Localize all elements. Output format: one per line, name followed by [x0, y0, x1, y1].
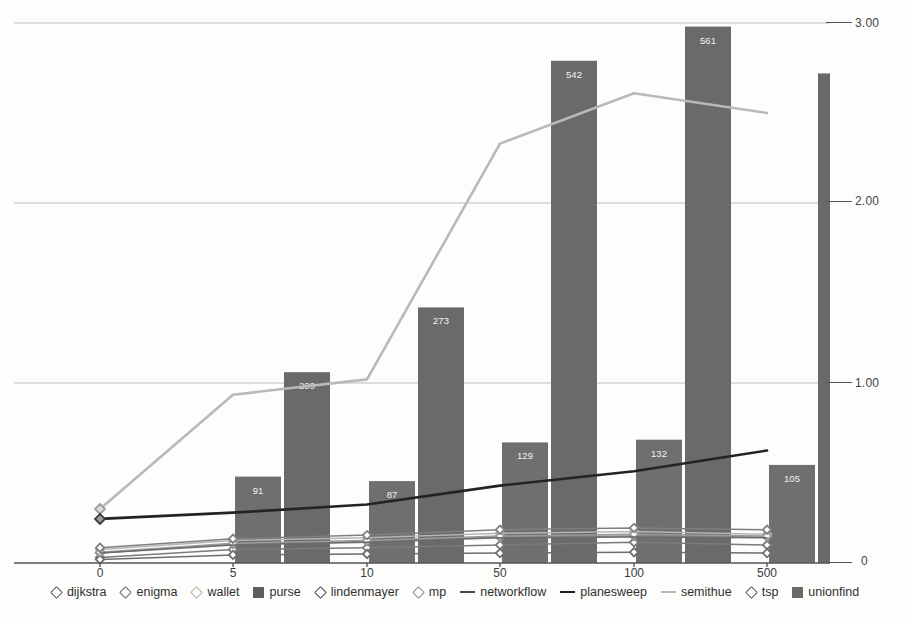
legend-item-lindenmayer[interactable]: lindenmayer [315, 586, 399, 599]
legend-item-semithue[interactable]: semithue [661, 586, 732, 599]
line-segment-icon [460, 591, 475, 593]
legend-item-unionfind[interactable]: unionfind [792, 586, 859, 599]
bar-unionfind [818, 73, 830, 563]
bar-value-label: 105 [784, 473, 800, 484]
bar-unionfind [418, 307, 464, 563]
legend-item-label: planesweep [580, 586, 647, 599]
legend-item-dijkstra[interactable]: dijkstra [51, 586, 107, 599]
marker-planesweep-origin [95, 514, 105, 524]
bar-value-label: 561 [700, 35, 716, 46]
y-axis-tick-0 [826, 562, 852, 563]
diamond-marker-icon [315, 587, 326, 598]
square-swatch-icon [792, 587, 803, 598]
legend-item-label: tsp [762, 586, 779, 599]
legend-item-wallet[interactable]: wallet [191, 586, 239, 599]
square-swatch-icon [253, 587, 264, 598]
legend-item-enigma[interactable]: enigma [120, 586, 177, 599]
diamond-marker-icon [413, 587, 424, 598]
legend-item-label: mp [429, 586, 446, 599]
legend-item-label: semithue [681, 586, 732, 599]
x-axis-tick-label: 100 [624, 566, 644, 580]
diamond-marker-icon [51, 587, 62, 598]
y-axis-tick-label: 1.00 [855, 376, 879, 390]
bar-value-label: 91 [253, 485, 264, 496]
legend-item-label: enigma [136, 586, 177, 599]
line-segment-icon [560, 591, 575, 593]
bar-value-label: 129 [517, 450, 533, 461]
x-axis-tick-label: 500 [757, 566, 777, 580]
legend-item-tsp[interactable]: tsp [746, 586, 779, 599]
chart-legend: dijkstraenigmawalletpurselindenmayermpne… [0, 581, 910, 603]
line-segment-icon [661, 591, 676, 593]
bar-value-label: 542 [566, 69, 582, 80]
diamond-marker-icon [120, 587, 131, 598]
x-axis-tick-label: 0 [97, 566, 104, 580]
legend-item-networkflow[interactable]: networkflow [460, 586, 546, 599]
bar-value-label: 87 [387, 489, 398, 500]
y-axis-tick-label: 2.00 [855, 194, 879, 208]
chart-root: 9120987273129542132561105525 3.00 2.00 1… [0, 0, 910, 622]
diamond-marker-icon [191, 587, 202, 598]
x-axis-tick-label: 5 [230, 566, 237, 580]
legend-item-label: unionfind [808, 586, 859, 599]
legend-item-mp[interactable]: mp [413, 586, 446, 599]
bar-unionfind [551, 61, 597, 563]
bar-unionfind [284, 372, 330, 563]
y-axis-tick-label: 3.00 [855, 16, 879, 30]
y-axis-tick-1 [826, 382, 852, 383]
legend-item-label: dijkstra [67, 586, 107, 599]
y-axis-tick-label: 0 [861, 554, 868, 568]
y-axis-tick-2 [826, 201, 852, 202]
plot-area: 9120987273129542132561105525 [0, 0, 830, 575]
legend-item-label: lindenmayer [331, 586, 399, 599]
y-axis-tick-3 [826, 22, 852, 23]
chart-canvas: 9120987273129542132561105525 [0, 0, 830, 575]
legend-item-purse[interactable]: purse [253, 586, 300, 599]
diamond-marker-icon [746, 587, 757, 598]
legend-item-label: wallet [207, 586, 239, 599]
x-axis-tick-label: 10 [360, 566, 373, 580]
x-axis-tick-label: 50 [493, 566, 506, 580]
bar-value-label: 132 [651, 448, 667, 459]
legend-item-label: networkflow [480, 586, 546, 599]
bar-value-label: 273 [433, 315, 449, 326]
legend-item-planesweep[interactable]: planesweep [560, 586, 647, 599]
legend-item-label: purse [269, 586, 300, 599]
